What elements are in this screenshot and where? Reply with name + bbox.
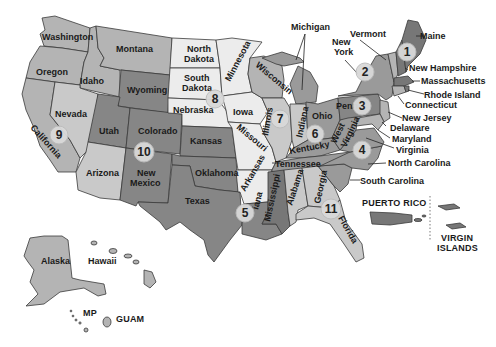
svg-text:9: 9 <box>56 128 63 142</box>
region-marker-9[interactable]: 9 <box>50 126 68 144</box>
label-michigan: Michigan <box>291 22 330 32</box>
label-mp: MP <box>83 308 97 318</box>
label-oregon: Oregon <box>36 67 68 77</box>
label-oklahoma: Oklahoma <box>195 168 240 178</box>
svg-text:5: 5 <box>242 206 249 220</box>
state-alaska[interactable] <box>24 236 106 306</box>
label-arizona: Arizona <box>86 168 120 178</box>
region-marker-7[interactable]: 7 <box>271 110 289 128</box>
label-massachusetts: Massachusetts <box>421 76 486 86</box>
label-montana: Montana <box>116 44 154 54</box>
label-delaware: Delaware <box>390 123 430 133</box>
label-north-carolina: North Carolina <box>388 158 451 168</box>
label-north-dakota-2: Dakota <box>184 54 215 64</box>
label-tennessee: Tennessee <box>275 159 321 169</box>
svg-text:3: 3 <box>359 99 366 113</box>
label-utah: Utah <box>99 126 119 136</box>
svg-text:4: 4 <box>359 143 366 157</box>
region-marker-11[interactable]: 11 <box>321 199 341 219</box>
label-colorado: Colorado <box>138 126 178 136</box>
label-rhode-island: Rhode Island <box>424 90 481 100</box>
label-north-dakota-1: North <box>187 44 211 54</box>
label-south-carolina: South Carolina <box>360 176 425 186</box>
region-marker-6[interactable]: 6 <box>306 125 324 143</box>
state-michigan-lower[interactable] <box>290 66 318 104</box>
territory-puerto-rico[interactable] <box>370 212 412 225</box>
label-new-mexico-1: New <box>137 168 157 178</box>
label-new-jersey: New Jersey <box>402 113 452 123</box>
svg-text:7: 7 <box>277 112 284 126</box>
label-south-dakota-2: Dakota <box>182 83 213 93</box>
territory-virgin-islands-1[interactable] <box>438 204 460 210</box>
label-virgin-islands-2: ISLANDS <box>437 243 478 253</box>
svg-text:2: 2 <box>362 65 369 79</box>
label-texas: Texas <box>185 196 210 206</box>
svg-text:6: 6 <box>312 127 319 141</box>
region-marker-8[interactable]: 8 <box>206 90 224 108</box>
label-new-hampshire: New Hampshire <box>409 63 477 73</box>
us-regions-map: Washington Oregon California Idaho Nevad… <box>0 0 496 347</box>
territory-guam[interactable] <box>103 317 111 327</box>
label-connecticut: Connecticut <box>405 100 457 110</box>
state-connecticut[interactable] <box>392 86 406 96</box>
territory-pr-islet[interactable] <box>414 219 422 222</box>
territory-virgin-islands-2[interactable] <box>446 223 466 229</box>
label-south-dakota-1: South <box>184 73 210 83</box>
label-maryland: Maryland <box>392 134 432 144</box>
label-new-york-2: York <box>334 47 354 57</box>
label-idaho: Idaho <box>80 76 105 86</box>
label-ohio: Ohio <box>312 111 333 121</box>
region-marker-5[interactable]: 5 <box>236 204 254 222</box>
label-nebraska: Nebraska <box>173 105 215 115</box>
label-puerto-rico: PUERTO RICO <box>362 198 427 208</box>
label-new-mexico-2: Mexico <box>130 178 161 188</box>
label-maine: Maine <box>420 31 446 41</box>
region-marker-2[interactable]: 2 <box>356 63 374 81</box>
label-virgin-islands-1: VIRGIN <box>441 233 473 243</box>
label-washington: Washington <box>42 32 93 42</box>
region-marker-3[interactable]: 3 <box>353 97 371 115</box>
label-wyoming: Wyoming <box>127 85 167 95</box>
svg-text:10: 10 <box>137 145 151 159</box>
label-alaska: Alaska <box>41 256 71 266</box>
label-vermont: Vermont <box>350 29 386 39</box>
svg-text:8: 8 <box>212 92 219 106</box>
label-hawaii: Hawaii <box>88 256 117 266</box>
svg-text:11: 11 <box>325 202 338 216</box>
label-kansas: Kansas <box>190 136 222 146</box>
svg-text:1: 1 <box>404 45 411 59</box>
label-nevada: Nevada <box>55 109 88 119</box>
region-marker-10[interactable]: 10 <box>134 142 154 162</box>
region-marker-1[interactable]: 1 <box>398 43 416 61</box>
label-new-york-1: New <box>332 37 352 47</box>
territory-pr-islet2[interactable] <box>422 215 426 217</box>
label-virginia: Virginia <box>396 145 430 155</box>
state-massachusetts[interactable] <box>394 76 414 86</box>
label-iowa: Iowa <box>233 107 254 117</box>
region-marker-4[interactable]: 4 <box>353 141 371 159</box>
label-guam: GUAM <box>116 314 144 324</box>
